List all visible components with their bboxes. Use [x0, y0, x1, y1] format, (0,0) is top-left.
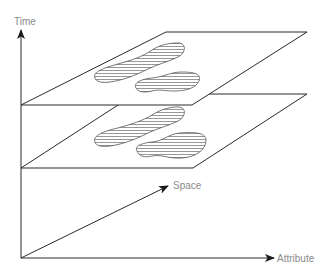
time-axis-label: Time: [14, 16, 36, 27]
space-axis: [21, 186, 168, 258]
attribute-axis-label: Attribute: [277, 253, 315, 264]
space-axis-label: Space: [173, 180, 202, 191]
space-time-diagram: Time Space Attribute: [0, 0, 324, 272]
